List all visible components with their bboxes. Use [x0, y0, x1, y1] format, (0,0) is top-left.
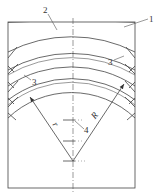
label-part-3-right: 3: [108, 57, 113, 67]
leader-line-3-right: [114, 56, 124, 60]
radius-line-right: [73, 84, 124, 161]
arc-shim-lower-a: [8, 82, 135, 105]
arc-band-2-inner: [8, 53, 135, 70]
engineering-diagram: 1 2 3 3 4 R r: [0, 0, 157, 195]
leader-line-4: [75, 121, 84, 129]
radius-line-left: [30, 97, 73, 161]
label-part-1: 1: [149, 14, 154, 24]
edge-cut-right-1: [126, 47, 135, 58]
arc-shim-upper-a: [8, 58, 135, 75]
edge-cut-left-1: [8, 47, 17, 58]
label-part-3-left: 3: [32, 77, 37, 87]
label-radius-r: r: [51, 120, 61, 129]
arc-band-outer-top: [8, 37, 135, 52]
frame-rectangle: [8, 22, 135, 188]
arc-band-middle-outer: [8, 67, 135, 86]
label-part-2: 2: [43, 5, 48, 15]
label-part-4: 4: [84, 125, 89, 135]
leader-line-1: [124, 19, 148, 27]
label-radius-R: R: [88, 110, 100, 122]
